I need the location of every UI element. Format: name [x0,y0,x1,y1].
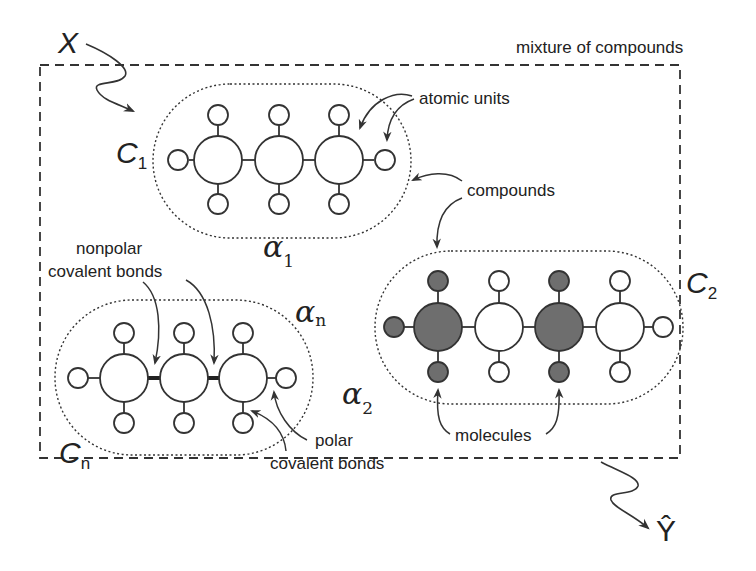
atom-small [269,105,289,125]
atom-small-shaded [549,271,569,291]
atom-small [489,271,509,291]
compound-c2: C2 α2 [342,251,717,418]
atom-small-shaded [549,362,569,382]
mixture-label: mixture of compounds [516,38,683,57]
arrow-atomic-units-2 [387,99,414,140]
annotation-nonpolar-line1: nonpolar [76,239,143,258]
atom-large [596,303,644,351]
compound-mixture-diagram: mixture of compounds X [0,0,756,571]
weight-label-alpha2: α2 [342,376,373,418]
weight-label-alphan: αn [295,294,326,330]
atom-small [329,194,349,214]
arrow-nonpolar-1 [143,282,159,363]
arrow-nonpolar-2 [186,280,214,363]
atom-small [269,194,289,214]
atom-small [375,150,395,170]
annotation-molecules: molecules [455,426,532,445]
output-symbol-y-hat: Ŷ [656,514,676,547]
atom-small [114,323,134,343]
atom-small-shaded [384,317,404,337]
atom-small [489,362,509,382]
atom-small [174,413,194,433]
arrow-compounds-2 [437,198,462,247]
compound-label-cn: Cn [59,436,90,473]
atom-small [174,323,194,343]
atom-large [219,354,267,402]
annotation-polar-line2: covalent bonds [270,454,384,473]
input-symbol-x: X [57,26,79,59]
weight-label-alpha1: α1 [263,229,294,271]
atom-large-shaded [414,303,462,351]
atom-small [114,413,134,433]
atom-small [610,271,630,291]
atom-small [208,105,228,125]
output-arrow-icon [601,462,648,528]
atom-small [276,368,296,388]
atom-small [168,150,188,170]
input-arrow-icon [86,44,133,111]
atom-large [315,136,363,184]
atom-small [329,105,349,125]
atom-small [233,323,253,343]
atom-large-shaded [535,303,583,351]
compound-label-c1: C1 [116,136,147,173]
arrow-compounds-1 [413,174,462,181]
atom-large [255,136,303,184]
annotation-nonpolar-line2: covalent bonds [48,262,162,281]
arrow-atomic-units-1 [360,94,412,128]
arrow-molecules-2 [546,390,559,434]
atom-small [68,368,88,388]
atom-small [653,317,673,337]
atom-small [233,413,253,433]
atom-large [100,354,148,402]
arrow-polar-1 [274,392,307,440]
annotation-atomic-units: atomic units [419,89,510,108]
arrow-polar-2 [252,411,286,451]
atom-small-shaded [428,362,448,382]
atom-large [160,354,208,402]
atom-small [610,362,630,382]
atom-small [208,194,228,214]
annotation-compounds: compounds [467,181,555,200]
compound-label-c2: C2 [686,266,717,303]
atom-small-shaded [428,271,448,291]
arrow-molecules-1 [438,390,451,434]
atom-large [475,303,523,351]
annotation-polar-line1: polar [315,431,353,450]
compound-c1: C1 α1 [116,84,411,271]
atom-large [194,136,242,184]
